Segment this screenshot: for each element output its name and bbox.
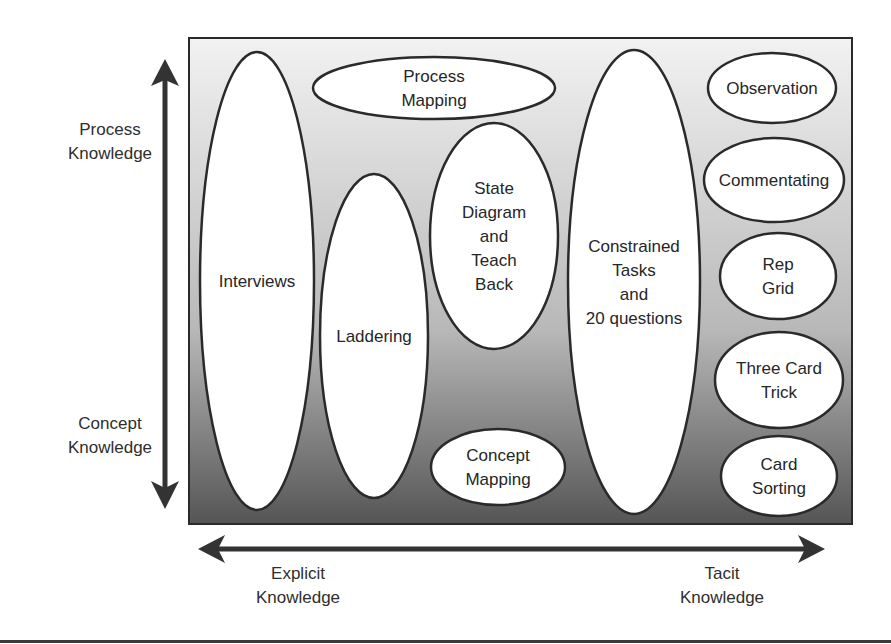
card-sorting-label: Sorting <box>752 479 806 498</box>
state-diagram-label: and <box>480 227 508 246</box>
constrained-tasks-label: and <box>620 285 648 304</box>
rep-grid-label: Grid <box>762 279 794 298</box>
technique-concept-mapping: ConceptMapping <box>431 429 565 505</box>
process-mapping-label: Mapping <box>401 91 466 110</box>
state-diagram-label: Back <box>475 275 513 294</box>
commentating-label: Commentating <box>719 171 830 190</box>
constrained-tasks-label: Tasks <box>612 261 655 280</box>
concept-knowledge-label-line1: Concept <box>50 412 170 436</box>
tacit-knowledge-label: Tacit Knowledge <box>662 562 782 610</box>
concept-knowledge-label: Concept Knowledge <box>50 412 170 460</box>
state-diagram-label: Diagram <box>462 203 526 222</box>
concept-mapping-label: Concept <box>466 446 530 465</box>
technique-laddering: Laddering <box>320 174 428 498</box>
concept-mapping-label: Mapping <box>465 470 530 489</box>
technique-rep-grid: RepGrid <box>720 233 836 319</box>
explicit-knowledge-label-line2: Knowledge <box>238 586 358 610</box>
interviews-label: Interviews <box>219 272 296 291</box>
three-card-trick-ellipse <box>715 332 843 428</box>
concept-mapping-ellipse <box>431 429 565 505</box>
rep-grid-ellipse <box>720 233 836 319</box>
three-card-trick-label: Trick <box>761 383 798 402</box>
explicit-knowledge-label: Explicit Knowledge <box>238 562 358 610</box>
technique-card-sorting: CardSorting <box>721 436 837 516</box>
process-knowledge-label-line2: Knowledge <box>50 142 170 166</box>
tacit-knowledge-label-line1: Tacit <box>662 562 782 586</box>
constrained-tasks-label: Constrained <box>588 237 680 256</box>
concept-knowledge-label-line2: Knowledge <box>50 436 170 460</box>
technique-constrained-tasks: ConstrainedTasksand20 questions <box>568 50 700 514</box>
rep-grid-label: Rep <box>762 255 793 274</box>
bottom-rule <box>0 640 891 643</box>
card-sorting-label: Card <box>761 455 798 474</box>
state-diagram-label: State <box>474 179 514 198</box>
constrained-tasks-label: 20 questions <box>586 309 682 328</box>
constrained-tasks-ellipse <box>568 50 700 514</box>
technique-interviews: Interviews <box>200 52 314 510</box>
technique-process-mapping: ProcessMapping <box>313 57 555 119</box>
technique-three-card-trick: Three CardTrick <box>715 332 843 428</box>
technique-state-diagram: StateDiagramandTeachBack <box>430 123 558 349</box>
process-knowledge-label: Process Knowledge <box>50 118 170 166</box>
explicit-knowledge-label-line1: Explicit <box>238 562 358 586</box>
knowledge-elicitation-diagram: InterviewsProcessMappingLadderingStateDi… <box>0 0 891 644</box>
state-diagram-label: Teach <box>471 251 516 270</box>
laddering-label: Laddering <box>336 327 412 346</box>
tacit-knowledge-label-line2: Knowledge <box>662 586 782 610</box>
process-mapping-label: Process <box>403 67 464 86</box>
card-sorting-ellipse <box>721 436 837 516</box>
process-knowledge-label-line1: Process <box>50 118 170 142</box>
technique-observation: Observation <box>708 53 836 123</box>
observation-label: Observation <box>726 79 818 98</box>
technique-commentating: Commentating <box>704 138 844 222</box>
three-card-trick-label: Three Card <box>736 359 822 378</box>
